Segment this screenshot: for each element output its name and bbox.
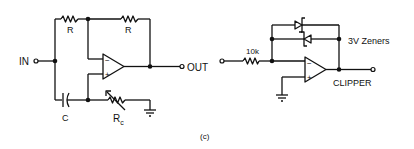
- clipper-in-terminal: [220, 59, 224, 63]
- circuit-diagram: IN R R − + OUT: [0, 0, 414, 149]
- out-label: OUT: [187, 62, 208, 73]
- r1-label: R: [67, 25, 74, 35]
- opamp-left-minus: −: [105, 56, 110, 65]
- resistor-10k: [243, 58, 259, 64]
- r2-label: R: [125, 25, 132, 35]
- left-circuit: IN R R − + OUT: [19, 16, 208, 126]
- capacitor-label: C: [62, 113, 69, 123]
- in-terminal: [34, 59, 38, 63]
- out-terminal: [180, 65, 184, 69]
- clipper-out-terminal: [371, 68, 375, 72]
- rc-label: Rc: [113, 113, 124, 126]
- resistor-r2: [121, 16, 138, 22]
- in-label: IN: [19, 56, 29, 67]
- right-circuit: 10k 3V Zeners − +: [220, 18, 390, 101]
- ground-symbol-right: [276, 95, 288, 101]
- resistor-10k-label: 10k: [246, 47, 260, 56]
- zener-label: 3V Zeners: [348, 36, 390, 46]
- resistor-r1: [61, 16, 78, 22]
- clipper-label: CLIPPER: [333, 78, 372, 88]
- opamp-clipper-plus: +: [307, 73, 312, 82]
- opamp-clipper-minus: −: [307, 59, 312, 68]
- figure-label: (c): [200, 132, 210, 141]
- ground-symbol-left: [144, 100, 156, 116]
- variable-resistor-rc: [106, 91, 125, 110]
- opamp-left-plus: +: [105, 70, 110, 79]
